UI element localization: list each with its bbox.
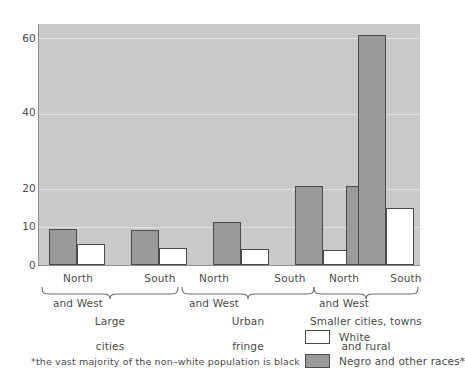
legend-swatch-white-icon: [305, 330, 330, 344]
group-label-line-1: Large: [95, 315, 125, 327]
y-axis-line: [38, 24, 39, 266]
bar-negro-smaller-cities-south: [358, 35, 386, 265]
bar-white-smaller-cities-south: [386, 208, 414, 265]
x-label-line-1: North: [63, 272, 93, 284]
y-tick-label-20: 20: [2, 182, 36, 194]
group-brace-large-cities: [40, 286, 180, 300]
x-label-line-1: North: [199, 272, 229, 284]
y-tick-label-40: 40: [2, 106, 36, 118]
plot-area-overlay: [39, 24, 420, 265]
x-label-line-1: South: [144, 272, 175, 284]
x-label-line-1: North: [329, 272, 359, 284]
x-label-line-1: South: [390, 272, 421, 284]
chart-footnote: *the vast majority of the non–white popu…: [31, 356, 300, 367]
group-brace-smaller-cities: [312, 286, 420, 300]
group-brace-urban-fringe: [180, 286, 316, 300]
y-tick-label-60: 60: [2, 32, 36, 44]
group-label-line-1: Urban: [232, 315, 265, 327]
group-label-urban-fringe: Urban fringe: [208, 302, 288, 352]
group-label-line-2: cities: [96, 340, 125, 352]
legend-label-white: White: [339, 331, 370, 343]
y-tick-label-10: 10: [2, 220, 36, 232]
y-axis-ticks: 60 40 20 10 0: [0, 0, 36, 300]
legend-item-negro-and-other-races: Negro and other races*: [305, 354, 465, 368]
legend-swatch-negro-icon: [305, 354, 330, 368]
legend-label-negro-and-other-races: Negro and other races*: [339, 355, 465, 367]
x-label-smaller-cities-south: South: [378, 259, 434, 284]
group-label-line-1: Smaller cities, towns: [310, 315, 422, 327]
legend-item-white: White: [305, 330, 370, 344]
group-label-line-2: fringe: [232, 340, 264, 352]
group-label-large-cities: Large cities: [70, 302, 150, 352]
group-label-smaller-cities: Smaller cities, towns and rural: [296, 302, 436, 352]
y-tick-label-0: 0: [2, 259, 36, 271]
x-label-line-1: South: [274, 272, 305, 284]
